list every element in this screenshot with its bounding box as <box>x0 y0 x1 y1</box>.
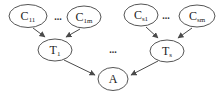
node-a: A <box>98 68 128 91</box>
ellipsis-middle: ... <box>109 44 117 55</box>
edge-c11-t1 <box>33 28 45 37</box>
node-cs1: Cs1 <box>124 4 158 26</box>
ellipsis-top-left: ... <box>54 11 62 22</box>
node-c11: C11 <box>9 5 47 28</box>
ellipsis-top-right: ... <box>162 10 170 21</box>
node-ts: Ts <box>150 40 184 62</box>
edge-ts-a <box>131 61 158 75</box>
edge-t1-a <box>64 60 95 75</box>
graph-diagram: C11 ... C1m Cs1 ... Csm T1 ... Ts A <box>0 0 224 95</box>
edge-cs1-ts <box>146 27 158 38</box>
node-t1: T1 <box>38 39 72 61</box>
edge-csm-ts <box>178 28 192 38</box>
node-csm: Csm <box>179 5 215 27</box>
edge-c1m-t1 <box>66 29 80 37</box>
node-a-label: A <box>109 72 118 86</box>
node-c1m: C1m <box>67 6 101 28</box>
